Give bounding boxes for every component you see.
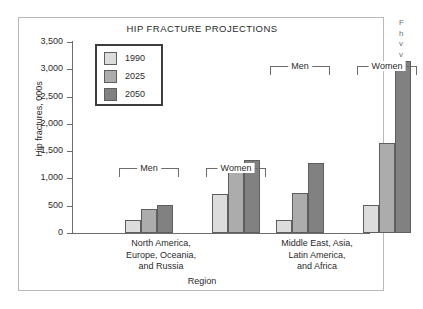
bar: [141, 209, 157, 233]
chart-title: HIP FRACTURE PROJECTIONS: [19, 23, 385, 34]
x-axis-title: Region: [19, 276, 385, 286]
bracket-right-men: Men: [270, 66, 330, 75]
y-axis-title: Hip fractures, 000s: [34, 49, 44, 189]
bar: [395, 61, 411, 233]
bracket-label: Men: [137, 163, 161, 173]
margin-caption-line-2: h: [399, 29, 423, 40]
margin-caption-text: F h v v: [399, 18, 423, 60]
category-line-1: Middle East, Asia,: [237, 238, 397, 250]
bar: [308, 163, 324, 233]
bracket-left-men: Men: [119, 168, 179, 177]
category-label-middle-east: Middle East, Asia, Latin America, and Af…: [237, 238, 397, 273]
bar: [157, 205, 173, 233]
y-tick-label: 500: [19, 201, 63, 210]
category-label-north-america: North America, Europe, Oceania, and Russ…: [81, 238, 241, 273]
category-line-3: and Russia: [81, 261, 241, 273]
bracket-right-women: Women: [357, 66, 417, 75]
y-tick-mark: [67, 69, 72, 70]
bracket-left-women: Women: [206, 168, 266, 177]
category-line-2: Europe, Oceania,: [81, 250, 241, 262]
bar: [292, 193, 308, 233]
legend-swatch-2050: [104, 88, 117, 101]
bracket-label: Men: [288, 61, 312, 71]
y-tick-mark: [67, 233, 72, 234]
legend-label-2025: 2025: [125, 71, 145, 82]
category-line-3: and Africa: [237, 261, 397, 273]
category-line-1: North America,: [81, 238, 241, 250]
bar: [125, 220, 141, 233]
margin-caption-line-3: v: [399, 39, 423, 50]
margin-caption-line-1: F: [399, 18, 423, 29]
figure-frame: HIP FRACTURE PROJECTIONS 05001,0001,5002…: [18, 17, 384, 291]
y-tick-mark: [67, 151, 72, 152]
y-tick-mark: [67, 97, 72, 98]
legend: 1990 2025 2050: [95, 44, 163, 106]
legend-swatch-2025: [104, 70, 117, 83]
x-axis-line: [72, 233, 370, 234]
bracket-label: Women: [369, 61, 406, 71]
y-tick-mark: [67, 178, 72, 179]
legend-swatch-1990: [104, 52, 117, 65]
bar: [212, 194, 228, 233]
bracket-label: Women: [218, 163, 255, 173]
y-tick-mark: [67, 124, 72, 125]
bar: [363, 205, 379, 233]
bar: [379, 143, 395, 233]
margin-caption-line-4: v: [399, 50, 423, 61]
bar: [276, 220, 292, 233]
category-line-2: Latin America,: [237, 250, 397, 262]
y-tick-label: 3,500: [19, 37, 63, 46]
y-tick-mark: [67, 206, 72, 207]
bar: [228, 170, 244, 233]
y-tick-mark: [67, 42, 72, 43]
y-tick-label: 0: [19, 228, 63, 237]
legend-label-1990: 1990: [125, 53, 145, 64]
legend-label-2050: 2050: [125, 89, 145, 100]
figure-root: HIP FRACTURE PROJECTIONS 05001,0001,5002…: [0, 0, 423, 309]
